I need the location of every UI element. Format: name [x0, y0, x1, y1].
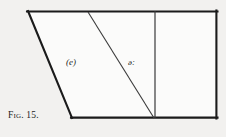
trapezoid-fill — [28, 11, 217, 118]
front-vowel-label: (e) — [66, 58, 76, 67]
figure-caption: Fig. 15. — [8, 110, 39, 120]
figure-caption-number: 15. — [26, 110, 38, 120]
figure-container: (e) ə: Fig. 15. — [0, 0, 226, 137]
central-vowel-label: ə: — [128, 58, 135, 67]
figure-caption-prefix: Fig. — [8, 110, 24, 120]
